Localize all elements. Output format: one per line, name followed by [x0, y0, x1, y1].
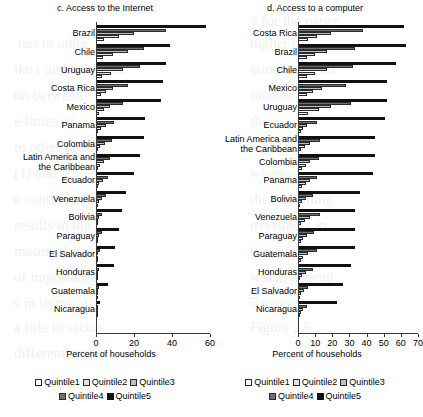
category-label: Costa Rica	[10, 83, 98, 93]
bar-quintile1	[298, 75, 307, 78]
panel-computer-x-axis-title: Percent of households	[212, 349, 422, 360]
chart-row: Honduras	[10, 263, 210, 281]
bar-group	[96, 226, 210, 244]
bar-group	[96, 42, 210, 60]
legend-item-q4[interactable]: Quintile4	[59, 391, 104, 401]
bar-group	[298, 134, 418, 152]
x-tick	[172, 334, 173, 337]
category-label: Panama	[10, 120, 98, 130]
legend-label: Quintile4	[278, 391, 314, 401]
category-label: Venezuela	[215, 212, 300, 222]
panel-computer-y-axis	[298, 22, 299, 333]
category-label: Guatemala	[215, 249, 300, 259]
bar-quintile1	[298, 56, 307, 59]
panel-internet-title: c. Access to the Internet	[0, 3, 210, 14]
bar-group	[298, 282, 418, 300]
chart-row: Ecuador	[215, 116, 420, 134]
bar-group	[298, 190, 418, 208]
panel-internet-plot: BrazilChileUruguayCosta RicaMexicoPanama…	[10, 22, 210, 333]
legend-swatch-icon	[107, 393, 114, 400]
legend-computer: Quintile1Quintile2Quintile3Quintile4Quin…	[210, 375, 420, 415]
bar-group	[96, 245, 210, 263]
x-tick	[315, 334, 316, 337]
category-label: Costa Rica	[215, 28, 300, 38]
x-tick-label: 40	[362, 338, 372, 348]
category-label: Chile	[215, 65, 300, 75]
chart-row: Nicaragua	[10, 300, 210, 318]
category-label: Nicaragua	[10, 304, 98, 314]
bar-group	[298, 263, 418, 281]
legend-item-q5[interactable]: Quintile5	[317, 391, 362, 401]
chart-row: Colombia	[10, 134, 210, 152]
x-tick	[349, 334, 350, 337]
chart-row: Guatemala	[215, 245, 420, 263]
category-label: Guatemala	[10, 286, 98, 296]
bar-group	[298, 226, 418, 244]
bar-group	[96, 79, 210, 97]
category-label: Uruguay	[10, 65, 98, 75]
chart-row: Brazil	[10, 24, 210, 42]
bar-group	[298, 245, 418, 263]
legend-item-q4[interactable]: Quintile4	[269, 391, 314, 401]
panel-internet-y-axis	[96, 22, 97, 333]
category-label: Bolivia	[215, 194, 300, 204]
category-label: Colombia	[215, 157, 300, 167]
chart-row: El Salvador	[215, 282, 420, 300]
category-label: Honduras	[10, 267, 98, 277]
legend-label: Quintile2	[302, 377, 338, 387]
category-label: El Salvador	[215, 286, 300, 296]
x-tick	[96, 334, 97, 337]
legend-item-q3[interactable]: Quintile3	[130, 377, 175, 387]
panel-internet-x-axis-title: Percent of households	[6, 349, 216, 360]
legend-swatch-icon	[130, 379, 137, 386]
bar-group	[96, 263, 210, 281]
legend-swatch-icon	[245, 379, 252, 386]
legend-swatch-icon	[35, 379, 42, 386]
category-label: Panama	[215, 175, 300, 185]
category-label: Chile	[10, 47, 98, 57]
chart-row: Chile	[215, 61, 420, 79]
category-label: Bolivia	[10, 212, 98, 222]
chart-row: Colombia	[215, 153, 420, 171]
x-tick-label: 60	[396, 338, 406, 348]
chart-row: Costa Rica	[215, 24, 420, 42]
legend-swatch-icon	[269, 393, 276, 400]
bar-group	[96, 153, 210, 171]
panel-internet-x-axis	[96, 333, 210, 334]
chart-row: Bolivia	[215, 190, 420, 208]
legend-item-q2[interactable]: Quintile2	[83, 377, 128, 387]
legend-label: Quintile1	[254, 377, 290, 387]
category-label: Brazil	[215, 47, 300, 57]
bar-group	[96, 98, 210, 116]
x-tick	[401, 334, 402, 337]
bar-group	[96, 300, 210, 318]
chart-row: Paraguay	[215, 226, 420, 244]
chart-row: Mexico	[215, 79, 420, 97]
category-label: Paraguay	[10, 231, 98, 241]
chart-row: Venezuela	[215, 208, 420, 226]
legend-item-q2[interactable]: Quintile2	[293, 377, 338, 387]
x-tick-label: 0	[93, 338, 98, 348]
bar-group	[96, 208, 210, 226]
x-tick-label: 50	[379, 338, 389, 348]
legend-item-q3[interactable]: Quintile3	[340, 377, 385, 387]
bar-group	[96, 24, 210, 42]
legend-item-q5[interactable]: Quintile5	[107, 391, 152, 401]
bar-quintile1	[298, 112, 308, 115]
category-label: El Salvador	[10, 249, 98, 259]
category-label: Ecuador	[10, 175, 98, 185]
bar-group	[298, 79, 418, 97]
legend-swatch-icon	[59, 393, 66, 400]
bar-group	[298, 42, 418, 60]
bar-group	[298, 208, 418, 226]
category-label: Colombia	[10, 139, 98, 149]
legend-item-q1[interactable]: Quintile1	[35, 377, 80, 387]
bar-group	[96, 282, 210, 300]
panel-computer: d. Access to a computer Costa RicaBrazil…	[210, 0, 420, 360]
x-tick	[418, 334, 419, 337]
bar-group	[96, 190, 210, 208]
legend-item-q1[interactable]: Quintile1	[245, 377, 290, 387]
x-tick	[384, 334, 385, 337]
legend-label: Quintile5	[116, 391, 152, 401]
panel-computer-rows: Costa RicaBrazilChileMexicoUruguayEcuado…	[215, 22, 420, 333]
